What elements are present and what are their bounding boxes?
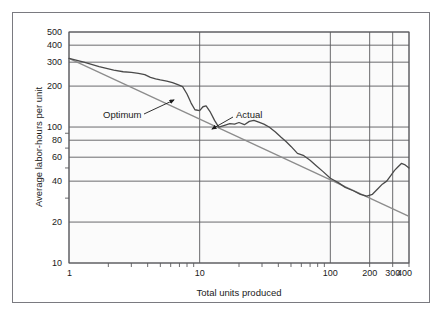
annotation-label-optimum: Optimum [103,109,142,120]
chart-frame: 5004003002001008060402010 11010020030040… [12,12,430,303]
x-tick-label: 1 [67,268,72,278]
y-tick-label: 200 [47,81,62,91]
y-axis-title: Average labor-hours per unit [33,87,44,208]
x-axis-minor-ticks [108,263,409,267]
x-tick-label: 100 [323,268,338,278]
y-tick-label: 60 [52,152,62,162]
y-tick-label: 400 [47,40,62,50]
y-tick-label: 500 [47,27,62,37]
x-axis-title: Total units produced [196,287,281,298]
y-tick-label: 40 [52,176,62,186]
x-axis-tick-labels: 110100200300400 [67,268,412,278]
x-tick-label: 200 [362,268,377,278]
annotation-label-actual: Actual [236,109,262,120]
y-tick-label: 300 [47,57,62,67]
x-tick-label: 10 [195,268,205,278]
plot-background [69,32,409,263]
y-tick-label: 80 [52,135,62,145]
x-tick-label: 400 [397,268,412,278]
figure-canvas: 5004003002001008060402010 11010020030040… [0,0,443,315]
y-tick-label: 100 [47,122,62,132]
y-tick-label: 10 [52,258,62,268]
y-axis-tick-labels: 5004003002001008060402010 [47,27,62,268]
y-axis-minor-ticks [65,133,69,198]
chart-plot: 5004003002001008060402010 11010020030040… [13,13,429,302]
y-tick-label: 20 [52,217,62,227]
